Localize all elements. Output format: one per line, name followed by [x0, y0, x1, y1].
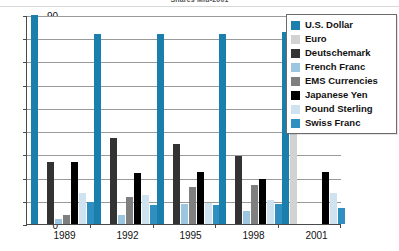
x-axis-tick — [340, 224, 341, 228]
legend-swatch-icon — [291, 49, 300, 58]
bar[interactable] — [31, 15, 38, 224]
x-axis-label: 1989 — [26, 230, 89, 246]
bar[interactable] — [94, 34, 101, 224]
x-axis-tick — [153, 224, 154, 228]
bar[interactable] — [205, 203, 212, 224]
bar-chart: Shares Mid-2001 9080706050403020100 1989… — [0, 0, 399, 251]
x-axis-label: 2001 — [278, 230, 341, 246]
x-axis-tick — [278, 224, 279, 228]
legend-item[interactable]: French Franc — [291, 60, 392, 74]
bar[interactable] — [157, 34, 164, 224]
bar[interactable] — [79, 193, 86, 224]
legend-swatch-icon — [291, 35, 300, 44]
title-divider — [0, 6, 399, 7]
chart-title: Shares Mid-2001 — [0, 0, 399, 2]
bar-group — [153, 16, 216, 224]
bar[interactable] — [55, 219, 62, 224]
x-axis-label: 1992 — [89, 230, 152, 246]
legend-swatch-icon — [291, 21, 300, 30]
bar[interactable] — [290, 133, 297, 224]
y-axis-tick — [23, 225, 27, 226]
legend-swatch-icon — [291, 119, 300, 128]
bar[interactable] — [189, 187, 196, 224]
legend-swatch-icon — [291, 63, 300, 72]
legend-item[interactable]: Deutschemark — [291, 46, 392, 60]
legend-item[interactable]: Swiss Franc — [291, 116, 392, 130]
bar-group — [27, 16, 90, 224]
bar[interactable] — [338, 208, 345, 224]
bar-group-bars — [31, 16, 95, 224]
bar[interactable] — [134, 173, 141, 224]
legend-item[interactable]: Euro — [291, 32, 392, 46]
bar[interactable] — [322, 172, 329, 224]
bar-group-bars — [94, 16, 158, 224]
chart-legend[interactable]: U.S. DollarEuroDeutschemarkFrench FrancE… — [286, 14, 397, 134]
bar[interactable] — [267, 200, 274, 224]
legend-item-label: Swiss Franc — [305, 118, 360, 128]
x-axis-label: 1998 — [215, 230, 278, 246]
bar[interactable] — [71, 162, 78, 224]
legend-item[interactable]: Japanese Yen — [291, 88, 392, 102]
x-axis-tick — [215, 224, 216, 228]
legend-item-label: Japanese Yen — [305, 90, 368, 100]
legend-item-label: EMS Currencies — [305, 76, 378, 86]
legend-item-label: Euro — [305, 34, 327, 44]
bar[interactable] — [47, 162, 54, 224]
x-axis-labels: 19891992199519982001 — [26, 230, 341, 246]
legend-item[interactable]: U.S. Dollar — [291, 18, 392, 32]
legend-swatch-icon — [291, 91, 300, 100]
bar[interactable] — [142, 195, 149, 224]
bar[interactable] — [197, 172, 204, 224]
legend-swatch-icon — [291, 105, 300, 114]
legend-item[interactable]: Pound Sterling — [291, 102, 392, 116]
bar[interactable] — [181, 204, 188, 224]
bar[interactable] — [259, 179, 266, 224]
bar[interactable] — [110, 138, 117, 224]
x-axis-tick — [90, 224, 91, 228]
legend-item-label: Deutschemark — [305, 48, 370, 58]
bar[interactable] — [173, 144, 180, 224]
bar[interactable] — [251, 185, 258, 224]
bar[interactable] — [63, 215, 70, 224]
bar[interactable] — [243, 211, 250, 224]
legend-item[interactable]: EMS Currencies — [291, 74, 392, 88]
bar[interactable] — [219, 34, 226, 224]
bar[interactable] — [126, 197, 133, 224]
legend-item-label: Pound Sterling — [305, 104, 373, 114]
bar[interactable] — [235, 156, 242, 225]
legend-swatch-icon — [291, 77, 300, 86]
legend-item-label: U.S. Dollar — [305, 20, 353, 30]
bar[interactable] — [330, 193, 337, 224]
bar-group-bars — [219, 16, 283, 224]
legend-item-label: French Franc — [305, 62, 365, 72]
bar-group — [90, 16, 153, 224]
x-axis-label: 1995 — [152, 230, 215, 246]
bar-group-bars — [157, 16, 221, 224]
bar[interactable] — [118, 215, 125, 224]
bar-group — [215, 16, 278, 224]
